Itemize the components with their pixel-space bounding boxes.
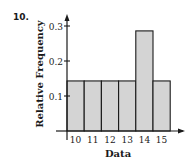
x-axis-arrow-icon [178,129,185,134]
bars-group [67,31,170,131]
x-tick-label-13: 13 [121,135,133,145]
histogram-bar-11 [84,81,101,131]
histogram-bar-12 [101,81,118,131]
histogram-bar-15 [153,81,170,131]
x-tick-label-12: 12 [104,135,115,145]
y-axis-arrow-icon [65,14,70,21]
y-tick-label: 0.3 [49,22,64,32]
x-tick-label-14: 14 [139,135,151,145]
y-axis-label: Relative Frequency [34,19,45,128]
x-tick-label-10: 10 [70,135,82,145]
histogram-chart: 0.10.20.3 101112131415 Data Relative Fre… [0,0,191,165]
histogram-bar-13 [119,81,136,131]
histogram-bar-14 [136,31,153,131]
x-tick-label-15: 15 [156,135,168,145]
histogram-bar-10 [67,81,84,131]
y-tick-label: 0.1 [49,92,63,102]
y-tick-label: 0.2 [49,57,63,67]
x-ticks-group: 101112131415 [70,135,168,145]
x-tick-label-11: 11 [87,135,98,145]
x-axis-label: Data [105,148,132,159]
